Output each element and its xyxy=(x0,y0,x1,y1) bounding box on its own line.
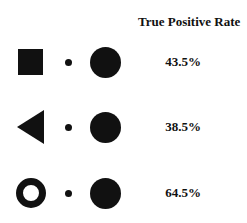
square-icon xyxy=(18,49,43,75)
large-circle-icon xyxy=(90,178,121,209)
small-dot-icon xyxy=(65,124,72,131)
tpr-value: 64.5% xyxy=(158,185,208,201)
row-square: 43.5% xyxy=(0,45,247,79)
ring-icon xyxy=(16,178,46,208)
small-dot-icon xyxy=(65,59,72,66)
large-circle-icon xyxy=(90,47,121,78)
tpr-value: 43.5% xyxy=(158,54,208,70)
large-circle-icon xyxy=(90,112,121,143)
tpr-value: 38.5% xyxy=(158,119,208,135)
small-dot-icon xyxy=(65,190,72,197)
row-ring: 64.5% xyxy=(0,176,247,210)
row-triangle: 38.5% xyxy=(0,110,247,144)
column-title: True Positive Rate xyxy=(138,14,240,30)
triangle-icon xyxy=(17,110,44,144)
